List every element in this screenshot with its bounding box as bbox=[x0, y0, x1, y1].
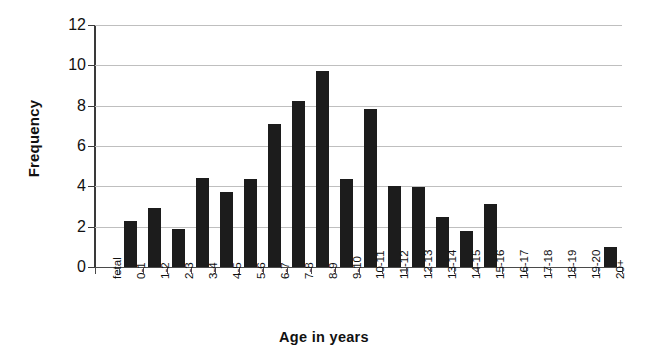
x-axis-tick bbox=[311, 268, 312, 274]
x-axis-tick-label: 18-19 bbox=[567, 250, 579, 279]
x-axis-tick bbox=[119, 268, 120, 274]
x-axis-tick-label: 17-18 bbox=[543, 250, 555, 279]
x-axis-tick bbox=[287, 268, 288, 274]
x-axis-tick bbox=[263, 268, 264, 274]
x-axis-tick-label: 2-3 bbox=[184, 262, 196, 279]
x-axis-tick bbox=[335, 268, 336, 274]
x-axis-tick bbox=[478, 268, 479, 274]
x-axis-tick-label: 5-6 bbox=[256, 262, 268, 279]
bar bbox=[220, 192, 233, 267]
x-axis-tick-label: 6-7 bbox=[280, 262, 292, 279]
x-axis-tick bbox=[502, 268, 503, 274]
x-axis-tick-label: 20+ bbox=[615, 259, 627, 279]
y-axis-tick bbox=[88, 267, 95, 268]
x-axis-title: Age in years bbox=[0, 329, 648, 345]
y-axis-tick bbox=[88, 227, 95, 228]
x-axis-tick bbox=[454, 268, 455, 274]
x-axis-tick bbox=[406, 268, 407, 274]
y-axis-tick-label: 2 bbox=[44, 219, 86, 235]
x-axis-tick-label: 11-12 bbox=[399, 250, 411, 279]
x-axis-tick-label: 16-17 bbox=[519, 250, 531, 279]
x-axis-tick-label: 13-14 bbox=[447, 250, 459, 279]
x-axis-tick bbox=[215, 268, 216, 274]
bar bbox=[148, 208, 161, 267]
y-axis-tick-label: 12 bbox=[44, 17, 86, 33]
bar bbox=[124, 221, 137, 267]
x-axis-tick-label: 9-10 bbox=[352, 256, 364, 279]
plot-area bbox=[95, 25, 622, 267]
x-axis-tick bbox=[382, 268, 383, 274]
bar bbox=[292, 101, 305, 267]
x-axis-tick-label: 7-8 bbox=[304, 262, 316, 279]
x-axis-tick bbox=[598, 268, 599, 274]
x-axis-tick-label: 15-16 bbox=[495, 250, 507, 279]
x-axis-tick bbox=[239, 268, 240, 274]
x-axis-tick-label: 14-15 bbox=[471, 250, 483, 279]
bar bbox=[196, 178, 209, 267]
bar bbox=[172, 229, 185, 267]
bar bbox=[340, 179, 353, 267]
x-axis-tick bbox=[143, 268, 144, 274]
x-axis-tick bbox=[526, 268, 527, 274]
y-axis-tick-label: 0 bbox=[44, 259, 86, 275]
y-axis-title: Frequency bbox=[25, 59, 42, 219]
bars-group bbox=[95, 25, 622, 267]
x-axis-tick-label: 0-1 bbox=[136, 262, 148, 279]
x-axis-tick-label: 4-5 bbox=[232, 262, 244, 279]
x-axis-tick-label: 12-13 bbox=[423, 250, 435, 279]
y-axis-tick bbox=[88, 146, 95, 147]
y-axis-tick bbox=[88, 106, 95, 107]
y-axis-tick bbox=[88, 186, 95, 187]
x-axis-tick bbox=[574, 268, 575, 274]
bar bbox=[268, 124, 281, 267]
y-axis-tick-label: 10 bbox=[44, 57, 86, 73]
bar bbox=[364, 109, 377, 267]
x-axis-tick-label: 8-9 bbox=[328, 262, 340, 279]
y-axis-tick-label: 6 bbox=[44, 138, 86, 154]
y-axis-tick-label: 4 bbox=[44, 178, 86, 194]
y-axis-tick-label: 8 bbox=[44, 98, 86, 114]
bar-chart: Frequency 024681012 fetal0-11-22-33-44-5… bbox=[0, 0, 648, 361]
x-axis-tick bbox=[359, 268, 360, 274]
x-axis-tick-label: 19-20 bbox=[591, 250, 603, 279]
x-axis-tick bbox=[167, 268, 168, 274]
x-axis-tick bbox=[95, 268, 96, 274]
bar bbox=[316, 71, 329, 267]
x-axis-tick bbox=[622, 268, 623, 274]
x-axis-tick-label: fetal bbox=[112, 257, 124, 279]
x-axis-tick bbox=[191, 268, 192, 274]
x-axis-tick bbox=[430, 268, 431, 274]
x-axis-tick-label: 3-4 bbox=[208, 262, 220, 279]
bar bbox=[244, 179, 257, 267]
x-axis-tick-label: 1-2 bbox=[160, 262, 172, 279]
x-axis-tick-label: 10-11 bbox=[375, 250, 387, 279]
y-axis-tick bbox=[88, 25, 95, 26]
y-axis-tick bbox=[88, 65, 95, 66]
x-axis-tick bbox=[550, 268, 551, 274]
